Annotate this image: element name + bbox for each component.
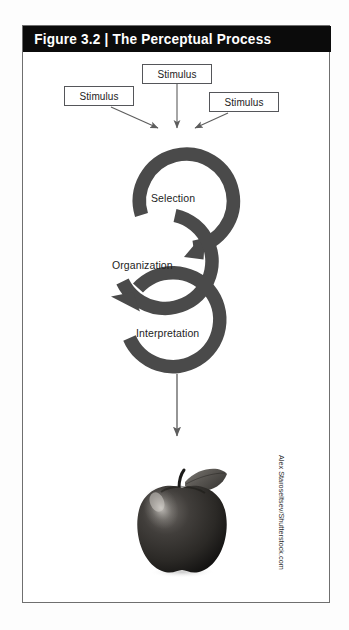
- process-label-interpretation: Interpretation: [136, 327, 199, 339]
- photo-credit-text: Alex Staroseltsev/Shutterstock.com: [277, 455, 286, 570]
- photo-credit: Alex Staroseltsev/Shutterstock.com: [275, 455, 289, 603]
- stimulus-box-left-label: Stimulus: [79, 91, 118, 102]
- stimulus-box-top: Stimulus: [142, 64, 212, 84]
- figure-frame: Figure 3.2 | The Perceptual Process Stim…: [22, 25, 330, 603]
- stimulus-box-left: Stimulus: [64, 86, 134, 106]
- page-canvas: Figure 3.2 | The Perceptual Process Stim…: [0, 0, 349, 630]
- stimulus-box-right: Stimulus: [209, 92, 279, 112]
- stimulus-arrow-right: [195, 113, 228, 128]
- apple-illustration: [127, 452, 237, 582]
- stimulus-arrow-left: [111, 107, 158, 128]
- stimulus-box-right-label: Stimulus: [224, 97, 263, 108]
- stimulus-box-top-label: Stimulus: [157, 69, 196, 80]
- interpretation-circular-arrow: [130, 273, 220, 367]
- apple-photo: [127, 452, 237, 582]
- apple-stem: [179, 470, 184, 488]
- process-label-selection: Selection: [151, 192, 195, 204]
- selection-circular-arrow: [139, 154, 233, 259]
- figure-header-title: Figure 3.2 | The Perceptual Process: [23, 31, 271, 47]
- figure-body: Stimulus Stimulus Stimulus: [23, 52, 331, 603]
- process-label-organization: Organization: [112, 259, 173, 271]
- figure-header-bar: Figure 3.2 | The Perceptual Process: [23, 26, 331, 52]
